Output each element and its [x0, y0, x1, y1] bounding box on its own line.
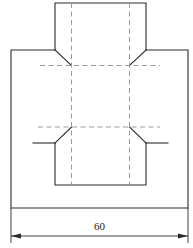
- chamfer-bottom-right-edge: [130, 127, 147, 143]
- upper-flange-outline: [55, 3, 146, 50]
- visible-outline-group: [11, 3, 188, 208]
- arrow-right-icon: [178, 234, 188, 239]
- main-body-outline: [11, 50, 188, 208]
- chamfer-bottom-left-edge: [55, 127, 72, 143]
- hidden-lines-group: [38, 3, 160, 185]
- flat-pattern-drawing: 60: [0, 0, 193, 248]
- chamfer-top-left-edge: [55, 50, 72, 66]
- chamfer-top-right-edge: [130, 50, 147, 66]
- dimension-label-60: 60: [94, 220, 106, 232]
- technical-drawing-canvas: 60: [0, 0, 193, 248]
- arrow-left-icon: [11, 234, 21, 239]
- lower-flange-outline: [55, 143, 146, 185]
